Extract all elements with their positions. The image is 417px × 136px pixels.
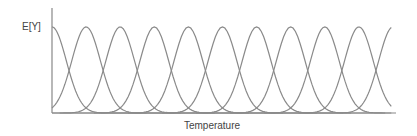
series-line-curve-2	[52, 27, 181, 113]
series-line-curve-3	[52, 27, 215, 113]
series-line-curve-8	[196, 27, 385, 113]
curves-group	[52, 27, 391, 113]
series-line-curve-4	[60, 27, 249, 113]
series-line-curve-7	[162, 27, 351, 113]
series-line-curve-11	[298, 28, 391, 113]
x-axis-label: Temperature	[184, 120, 241, 131]
series-line-curve-6	[128, 27, 317, 113]
series-line-curve-5	[94, 27, 283, 113]
series-line-curve-1	[52, 27, 147, 113]
series-line-curve-10	[264, 27, 391, 113]
y-axis-label: E[Y]	[22, 21, 41, 32]
chart: E[Y] Temperature	[0, 0, 417, 136]
